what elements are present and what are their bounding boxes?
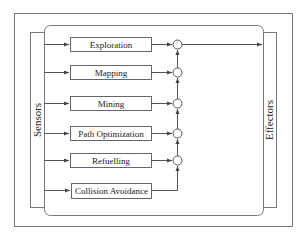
behavior-label: Path Optimization <box>78 129 144 139</box>
behavior-mapping: Mapping <box>71 66 152 80</box>
suppressor-node-4 <box>173 129 182 138</box>
suppressor-node-5 <box>173 156 182 165</box>
behavior-label: Exploration <box>90 40 133 50</box>
behavior-refuelling: Refuelling <box>71 154 152 168</box>
behavior-label: Refuelling <box>92 156 130 166</box>
outer-frame <box>15 14 293 227</box>
suppressor-node-2 <box>173 68 182 77</box>
behavior-path-optimization: Path Optimization <box>71 127 152 141</box>
suppressor-node-3 <box>173 99 182 108</box>
behavior-mining: Mining <box>71 97 152 111</box>
suppressor-node-1 <box>173 40 182 49</box>
effectors-label: Effectors <box>263 100 275 140</box>
behavior-label: Mapping <box>95 68 128 78</box>
sensors-label: Sensors <box>31 103 43 137</box>
behavior-exploration: Exploration <box>71 38 152 52</box>
subsumption-architecture-diagram: Sensors Effectors Exploration Mapping Mi… <box>0 0 306 238</box>
behavior-label: Collision Avoidance <box>75 186 148 196</box>
behavior-collision-avoidance: Collision Avoidance <box>72 184 152 199</box>
behavior-label: Mining <box>98 99 125 109</box>
